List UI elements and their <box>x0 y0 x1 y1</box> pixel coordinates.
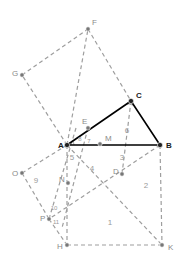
vertex-label-K: K <box>168 243 174 252</box>
region-1: 1 <box>108 218 113 227</box>
geometry-canvas: ABCDEFGHKMNOP 1234567891011 <box>0 0 182 267</box>
region-2: 2 <box>144 181 149 190</box>
region-6: 6 <box>125 126 130 135</box>
vertex-label-O: O <box>12 169 18 178</box>
dashed-edge-F-C <box>88 29 131 101</box>
vertex-label-G: G <box>12 69 18 78</box>
vertex-dot-M <box>98 142 102 146</box>
dashed-edge-G-F <box>22 29 88 75</box>
region-7: 7 <box>87 138 91 144</box>
region-4: 4 <box>90 164 95 173</box>
vertex-label-P: P <box>40 214 45 223</box>
vertex-label-H: H <box>57 242 63 251</box>
vertex-dot-C <box>128 98 133 103</box>
vertex-dot-D <box>120 172 124 176</box>
vertex-label-C: C <box>136 91 142 100</box>
vertex-label-N: N <box>59 175 65 184</box>
vertex-dot-O <box>20 171 24 175</box>
vertex-dot-B <box>157 142 162 147</box>
vertex-label-A: A <box>58 141 64 150</box>
vertex-dot-A <box>64 142 69 147</box>
vertex-dot-N <box>66 181 70 185</box>
vertex-label-M: M <box>105 134 112 143</box>
dashed-edge-A-G <box>22 75 67 145</box>
region-11: 11 <box>53 219 60 225</box>
vertex-dot-E <box>86 126 90 130</box>
vertex-dot-F <box>86 27 90 31</box>
vertex-label-D: D <box>113 167 119 176</box>
vertex-label-E: E <box>82 117 87 126</box>
region-9: 9 <box>34 176 39 185</box>
solid-edge-AC <box>67 101 131 145</box>
dashed-edge-C-M-D <box>122 101 131 174</box>
dashed-edge-A-E-F <box>67 29 88 145</box>
solid-edge-CB <box>131 101 160 145</box>
vertex-label-F: F <box>92 18 97 27</box>
region-3: 3 <box>120 153 125 162</box>
dashed-edge-A-D-K <box>67 145 162 245</box>
vertex-dot-G <box>20 73 24 77</box>
dashed-edge-B-K <box>160 145 162 245</box>
region-10: 10 <box>51 205 58 211</box>
vertex-label-B: B <box>166 141 172 150</box>
dashed-edges-group <box>22 29 162 245</box>
vertex-dot-P <box>47 217 51 221</box>
region-8: 8 <box>78 136 82 142</box>
vertex-labels-group: ABCDEFGHKMNOP <box>12 18 174 252</box>
geometry-figure: ABCDEFGHKMNOP 1234567891011 <box>0 0 182 267</box>
vertex-dot-K <box>160 243 164 247</box>
vertex-dot-H <box>65 243 69 247</box>
region-5: 5 <box>70 153 75 162</box>
